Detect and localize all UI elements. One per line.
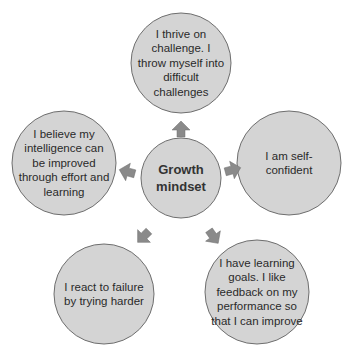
center-label-line2: mindset bbox=[156, 178, 206, 195]
node-text-right: I am self-confident bbox=[254, 128, 324, 198]
arrow-left-icon bbox=[117, 161, 137, 183]
center-label-line1: Growth bbox=[158, 161, 204, 178]
arrow-up-icon bbox=[172, 121, 190, 137]
node-text-bottom-right: I have learning goals. I like feedback o… bbox=[210, 245, 304, 339]
arrow-bottom-left-icon bbox=[131, 225, 155, 249]
node-text-top: I thrive on challenge. I throw myself in… bbox=[136, 18, 226, 108]
center-label: Growth mindset bbox=[146, 145, 216, 211]
node-text-left: I believe my intelligence can be improve… bbox=[18, 118, 110, 208]
node-text-bottom-left: I react to failure by trying harder bbox=[58, 250, 150, 338]
